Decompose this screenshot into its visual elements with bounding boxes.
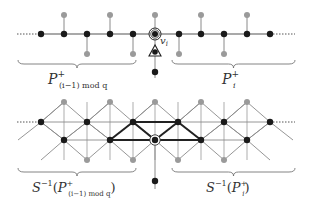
black-node: [244, 137, 250, 143]
brace-right-top: [172, 60, 295, 68]
lattice-edge: [87, 102, 110, 122]
lattice-edge: [247, 122, 270, 140]
lattice-edge: [110, 140, 133, 160]
diagram-canvas: vi P+(i−1) mod q P+i S−1(P+(i−1) mod q) …: [0, 0, 309, 203]
black-node: [84, 31, 90, 37]
black-node: [175, 119, 181, 125]
grey-node: [61, 12, 67, 18]
black-node: [244, 31, 250, 37]
black-node: [267, 119, 273, 125]
lattice-edge: [201, 102, 224, 122]
lattice-edge: [87, 140, 110, 160]
black-node: [130, 119, 136, 125]
lattice-edge: [41, 140, 64, 160]
lattice-edge: [64, 140, 87, 160]
lattice-edge: [110, 102, 133, 122]
grey-node: [107, 12, 113, 18]
triangle-center-node: [152, 49, 158, 55]
lattice-edge: [132, 102, 155, 122]
black-node: [267, 31, 273, 37]
grey-node: [152, 99, 158, 105]
lattice-edge: [178, 140, 201, 160]
grey-node: [244, 12, 250, 18]
black-node: [221, 119, 227, 125]
lattice-edge: [41, 122, 64, 140]
black-node: [176, 31, 182, 37]
grey-node: [176, 51, 182, 57]
brace-label-p-i: P+i: [221, 69, 239, 90]
special-node-vi: [152, 31, 158, 37]
black-node: [61, 31, 67, 37]
black-node: [198, 31, 204, 37]
lattice-edge: [224, 140, 247, 160]
black-node: [152, 69, 158, 75]
grey-node: [84, 157, 90, 163]
black-node: [107, 31, 113, 37]
lattice-edge: [41, 102, 64, 122]
grey-node: [84, 51, 90, 57]
black-node: [221, 31, 227, 37]
grey-node: [198, 99, 204, 105]
highlighted-edge: [178, 122, 201, 140]
lattice-edge: [224, 122, 247, 140]
lattice-edge: [247, 102, 270, 122]
lattice-edge: [247, 140, 270, 160]
lattice-edge: [178, 102, 201, 122]
lattice-edge: [87, 122, 110, 140]
grey-node: [130, 157, 136, 163]
black-node: [84, 119, 90, 125]
special-lattice-node: [152, 137, 158, 143]
graph-diagram: vi P+(i−1) mod q P+i S−1(P+(i−1) mod q) …: [0, 0, 309, 203]
grey-node: [107, 99, 113, 105]
black-node: [152, 178, 158, 184]
lattice-edge: [155, 102, 178, 122]
grey-node: [221, 157, 227, 163]
brace-right-bottom: [172, 168, 295, 176]
brace-label-p-prev: P+(i−1) mod q: [47, 69, 107, 90]
grey-node: [130, 51, 136, 57]
grey-node: [244, 99, 250, 105]
grey-node: [61, 99, 67, 105]
vertex-label-vi: vi: [160, 35, 168, 48]
black-node: [107, 137, 113, 143]
black-node: [38, 119, 44, 125]
lattice-edge: [224, 102, 247, 122]
brace-left-bottom: [18, 168, 136, 176]
brace-label-s-inv-p-prev: S−1(P+(i−1) mod q): [32, 179, 116, 198]
lattice-edge: [201, 140, 224, 160]
black-node: [130, 31, 136, 37]
black-node: [198, 137, 204, 143]
black-node: [61, 137, 67, 143]
lattice-edge: [64, 102, 87, 122]
lattice-edge: [18, 122, 41, 140]
black-node: [38, 31, 44, 37]
brace-left-top: [18, 60, 136, 68]
lattice-edge: [201, 122, 224, 140]
grey-node: [175, 157, 181, 163]
grey-node: [198, 12, 204, 18]
lattice-edge: [270, 122, 293, 140]
brace-label-s-inv-p-i: S−1(P+i): [206, 179, 250, 198]
grey-node: [152, 12, 158, 18]
lattice-edge: [64, 122, 87, 140]
grey-node: [221, 51, 227, 57]
highlighted-edge: [110, 122, 133, 140]
